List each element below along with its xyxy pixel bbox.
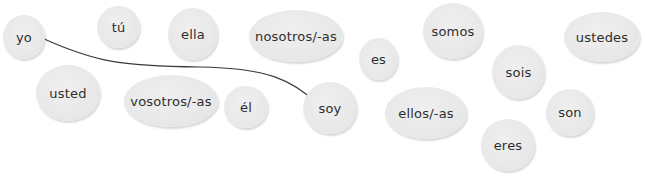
- bubble-yo[interactable]: yo: [3, 15, 45, 59]
- bubble-label: somos: [431, 24, 474, 39]
- bubble-label: tú: [112, 20, 126, 35]
- bubble-el[interactable]: él: [224, 86, 268, 128]
- bubble-label: ellos/-as: [398, 106, 454, 121]
- bubble-eres[interactable]: eres: [481, 119, 535, 171]
- bubble-ellos[interactable]: ellos/-as: [385, 87, 467, 139]
- bubble-es[interactable]: es: [359, 38, 398, 80]
- bubble-label: nosotros/-as: [255, 29, 337, 44]
- bubble-usted[interactable]: usted: [36, 65, 100, 121]
- bubble-label: ustedes: [576, 30, 629, 45]
- bubble-label: eres: [494, 138, 523, 153]
- bubble-somos[interactable]: somos: [423, 3, 483, 59]
- bubble-soy[interactable]: soy: [303, 82, 357, 134]
- bubble-label: usted: [49, 86, 86, 101]
- bubble-label: soy: [318, 101, 341, 116]
- bubble-label: él: [240, 100, 252, 115]
- bubble-sois[interactable]: sois: [492, 45, 545, 99]
- bubble-label: ella: [181, 27, 205, 42]
- bubble-nosotros[interactable]: nosotros/-as: [249, 10, 343, 62]
- bubble-label: vosotros/-as: [130, 94, 211, 109]
- bubble-ella[interactable]: ella: [168, 8, 218, 60]
- bubble-label: sois: [506, 65, 532, 80]
- bubble-son[interactable]: son: [546, 89, 594, 136]
- matching-exercise: yo tú ella nosotros/-as es somos ustedes…: [0, 0, 645, 178]
- bubble-ustedes[interactable]: ustedes: [564, 12, 640, 62]
- bubble-label: son: [558, 105, 582, 120]
- bubble-vosotros[interactable]: vosotros/-as: [124, 75, 218, 127]
- bubble-label: yo: [16, 30, 32, 45]
- bubble-label: es: [371, 52, 386, 67]
- bubble-tu[interactable]: tú: [97, 6, 140, 48]
